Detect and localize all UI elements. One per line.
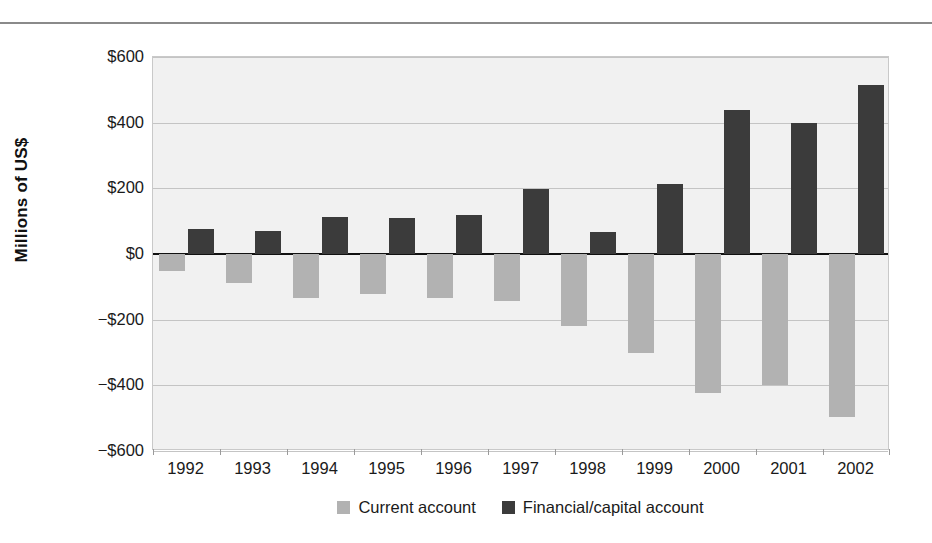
x-tick-label: 1999 <box>620 459 690 478</box>
bar-current-account <box>226 254 252 283</box>
x-tick-mark <box>823 449 824 455</box>
bar-group <box>555 57 622 449</box>
y-tick-label: $200 <box>54 178 144 197</box>
bar-group <box>153 57 220 449</box>
y-axis-tick-labels: $600$400$200$0−$200−$400−$600 <box>48 56 144 450</box>
bar-group <box>689 57 756 449</box>
bar-financial-capital-account <box>389 218 415 254</box>
x-tick-mark <box>421 449 422 455</box>
chart-legend: Current accountFinancial/capital account <box>152 498 889 517</box>
bar-financial-capital-account <box>858 85 884 254</box>
bars-layer <box>153 57 888 449</box>
x-tick-mark <box>555 449 556 455</box>
bar-financial-capital-account <box>590 232 616 254</box>
bar-financial-capital-account <box>791 123 817 254</box>
bar-current-account <box>762 254 788 385</box>
y-tick-label: −$600 <box>54 441 144 460</box>
y-tick-label: $400 <box>54 112 144 131</box>
x-tick-label: 1998 <box>553 459 623 478</box>
legend-swatch-current <box>337 501 350 514</box>
x-tick-mark <box>220 449 221 455</box>
legend-label: Current account <box>358 498 475 517</box>
bar-current-account <box>293 254 319 298</box>
bar-group <box>287 57 354 449</box>
bar-group <box>354 57 421 449</box>
bar-financial-capital-account <box>188 229 214 254</box>
x-tick-label: 2001 <box>754 459 824 478</box>
bar-financial-capital-account <box>657 184 683 254</box>
bar-current-account <box>561 254 587 326</box>
bar-current-account <box>829 254 855 417</box>
legend-entry: Financial/capital account <box>502 498 704 517</box>
x-tick-mark <box>287 449 288 455</box>
bar-financial-capital-account <box>456 215 482 254</box>
gridline <box>153 451 888 452</box>
x-tick-label: 1993 <box>218 459 288 478</box>
bar-group <box>220 57 287 449</box>
x-tick-mark <box>622 449 623 455</box>
bar-financial-capital-account <box>322 217 348 254</box>
bar-current-account <box>159 254 185 271</box>
legend-label: Financial/capital account <box>523 498 704 517</box>
bar-chart-figure: Millions of US$ $600$400$200$0−$200−$400… <box>0 0 932 543</box>
x-tick-mark <box>756 449 757 455</box>
x-tick-label: 1994 <box>285 459 355 478</box>
y-tick-label: $600 <box>54 47 144 66</box>
legend-swatch-financial <box>502 501 515 514</box>
bar-group <box>488 57 555 449</box>
x-tick-mark <box>689 449 690 455</box>
x-tick-label: 2002 <box>821 459 891 478</box>
x-tick-mark <box>153 449 154 455</box>
bar-current-account <box>695 254 721 393</box>
x-tick-mark <box>354 449 355 455</box>
x-tick-label: 1992 <box>151 459 221 478</box>
legend-entry: Current account <box>337 498 475 517</box>
bar-group <box>823 57 890 449</box>
plot-area <box>152 56 889 450</box>
x-tick-mark <box>488 449 489 455</box>
x-tick-label: 1996 <box>419 459 489 478</box>
bar-group <box>622 57 689 449</box>
x-tick-label: 1997 <box>486 459 556 478</box>
y-tick-label: $0 <box>54 244 144 263</box>
bar-group <box>421 57 488 449</box>
bar-group <box>756 57 823 449</box>
y-tick-label: −$200 <box>54 309 144 328</box>
x-tick-label: 2000 <box>687 459 757 478</box>
bar-current-account <box>628 254 654 353</box>
x-tick-mark <box>889 449 890 455</box>
y-axis-title: Millions of US$ <box>12 100 32 300</box>
x-axis-tick-labels: 1992199319941995199619971998199920002001… <box>152 459 889 485</box>
bar-financial-capital-account <box>724 110 750 254</box>
bar-current-account <box>360 254 386 294</box>
bar-financial-capital-account <box>523 189 549 254</box>
y-tick-label: −$400 <box>54 375 144 394</box>
bar-current-account <box>494 254 520 301</box>
x-tick-label: 1995 <box>352 459 422 478</box>
bar-financial-capital-account <box>255 231 281 254</box>
bar-current-account <box>427 254 453 298</box>
